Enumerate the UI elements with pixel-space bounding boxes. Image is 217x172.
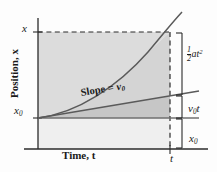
- fraction-one-half: 12: [187, 46, 191, 63]
- decomposition-brackets: [176, 33, 182, 148]
- term-label-half-a-t-squared: 12at2: [187, 46, 203, 63]
- fraction-numerator: 1: [187, 46, 191, 54]
- term-label-x0: x0: [189, 133, 198, 146]
- term-accel-exponent: 2: [199, 48, 202, 55]
- term-label-v0t: v0t: [188, 103, 200, 116]
- x-tick-label-t: t: [170, 153, 173, 164]
- y-axis-title: Position, x: [9, 38, 20, 110]
- position-time-figure: x x0 t Position, x Time, t Slope =v0 12a…: [0, 0, 217, 172]
- fraction-denominator: 2: [187, 54, 191, 63]
- term-init-sub: 0: [194, 138, 198, 146]
- y-tick-label-x: x: [22, 23, 27, 34]
- term-vel-time: t: [197, 102, 200, 114]
- x-axis-title: Time, t: [62, 150, 95, 161]
- band-x0-fill: [38, 118, 170, 149]
- y-tick-label-x0-sub: 0: [19, 110, 23, 118]
